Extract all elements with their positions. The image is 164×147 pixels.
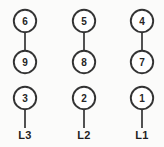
column-group-l1: 4 7 1 L1 [131,10,153,141]
column-group-l2: 5 8 2 L2 [73,10,95,141]
node-label-6: 6 [22,16,28,27]
diagram-canvas: 6 9 3 L3 5 8 2 L2 4 7 [0,0,164,147]
node-label-2: 2 [81,93,87,104]
node-label-5: 5 [81,16,87,27]
terminal-label-l1: L1 [135,129,148,141]
terminal-label-l3: L3 [18,129,31,141]
node-label-1: 1 [139,93,145,104]
column-group-l3: 6 9 3 L3 [14,10,36,141]
node-label-3: 3 [22,93,28,104]
node-label-7: 7 [139,57,145,68]
node-label-4: 4 [139,16,145,27]
node-label-8: 8 [81,57,87,68]
connection-diagram: 6 9 3 L3 5 8 2 L2 4 7 [0,0,164,147]
terminal-label-l2: L2 [77,129,90,141]
node-label-9: 9 [22,57,28,68]
